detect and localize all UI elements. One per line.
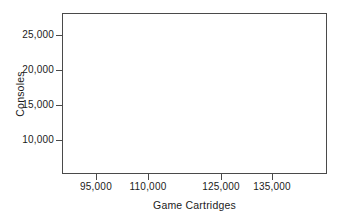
scatter-plot-figure: 25,000 20,000 15,000 10,000 95,000 110,0… — [0, 0, 340, 224]
x-tick-mark — [272, 174, 273, 180]
y-axis-title: Consoles — [14, 34, 26, 154]
x-tick-label: 125,000 — [202, 182, 240, 192]
y-tick-mark — [56, 140, 62, 141]
y-tick-label: 20,000 — [22, 65, 54, 75]
y-tick-mark — [56, 35, 62, 36]
y-tick-mark — [56, 70, 62, 71]
y-tick-label: 25,000 — [22, 30, 54, 40]
plot-area — [62, 13, 327, 174]
y-tick-mark — [56, 105, 62, 106]
x-axis-title: Game Cartridges — [62, 199, 327, 211]
x-tick-label: 95,000 — [80, 182, 112, 192]
x-tick-label: 135,000 — [253, 182, 291, 192]
y-tick-label: 10,000 — [22, 135, 54, 145]
y-tick-label: 15,000 — [22, 100, 54, 110]
x-tick-mark — [96, 174, 97, 180]
x-tick-mark — [221, 174, 222, 180]
x-tick-mark — [148, 174, 149, 180]
x-tick-label: 110,000 — [130, 182, 167, 192]
